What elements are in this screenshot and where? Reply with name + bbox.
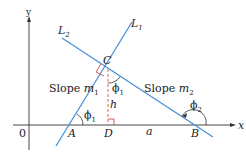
x-axis-label: x [238, 119, 245, 132]
slope-m1-label: Slope m1 [49, 82, 99, 97]
origin-label: 0 [19, 127, 26, 140]
x-axis-arrow-icon [230, 123, 236, 127]
right-angle-marker-D [108, 119, 114, 125]
diagram-canvas: y x 0 L2 L1 C A D B h a Slope m1 Slope m… [0, 0, 246, 157]
point-C-label: C [103, 54, 112, 67]
L1-label: L1 [130, 17, 143, 32]
height-label: h [110, 98, 117, 111]
y-axis-label: y [25, 7, 32, 17]
phi1-at-C-label: ϕ1 [112, 82, 124, 97]
L2-label: L2 [57, 24, 70, 39]
point-A-label: A [67, 127, 76, 140]
phi2-at-B-label: ϕ2 [190, 99, 202, 114]
slope-m2-label: Slope m2 [144, 82, 194, 97]
point-B-label: B [190, 127, 199, 140]
phi1-at-A-label: ϕ1 [84, 109, 96, 124]
point-D-label: D [103, 127, 113, 140]
angle-arc-phi1-A [77, 114, 83, 125]
base-label: a [146, 125, 153, 138]
